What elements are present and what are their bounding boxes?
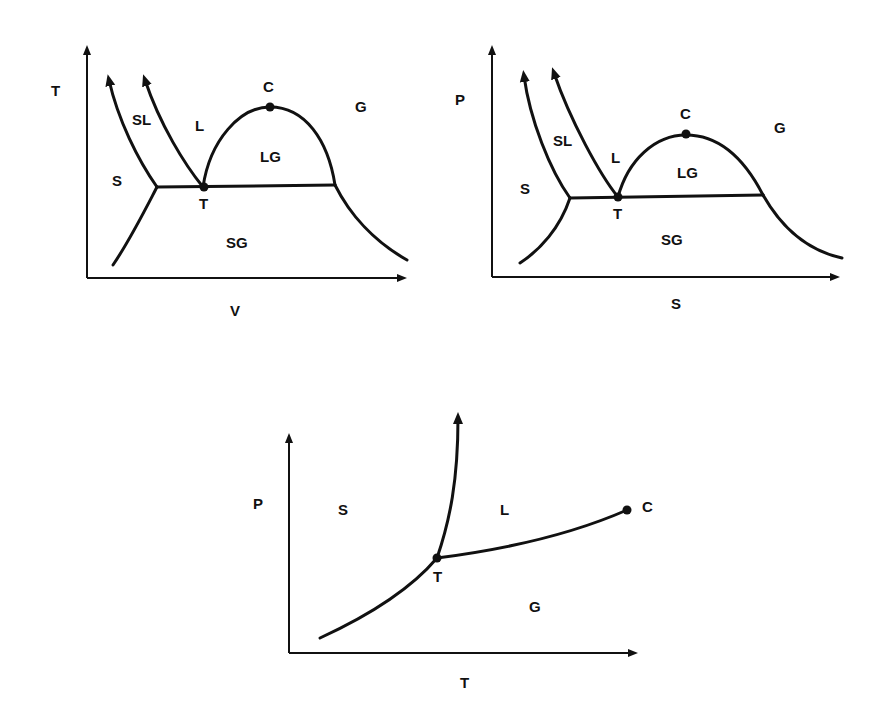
pt-triple-label: T [433,568,442,585]
ps-y-axis-label: P [455,91,465,108]
pt-region-l: L [500,501,509,518]
pt-sublimation-curve [320,558,437,638]
pt-region-g: G [529,598,541,615]
pt-critical-point [623,506,632,515]
tv-coexistence-dome [203,107,335,187]
tv-triple-point [200,183,209,192]
ps-vapor-right-curve [763,195,842,258]
ps-region-s: S [520,180,530,197]
tv-triple-line [157,185,335,187]
tv-x-axis-label: V [230,302,240,319]
ps-sublimation-left-curve [520,198,570,263]
ps-x-axis-label: S [671,295,681,312]
pt-diagram: P T C T S L G [253,418,653,691]
tv-region-l: L [195,117,204,134]
ps-critical-point [682,130,691,139]
pt-critical-label: C [642,498,653,515]
tv-critical-point [266,103,275,112]
tv-diagram: T V C T S SL L LG G SG [51,50,407,319]
ps-triple-line [570,195,763,198]
ps-region-lg: LG [677,164,698,181]
pt-vaporization-curve [437,510,627,558]
ps-region-g: G [774,119,786,136]
tv-vapor-right-curve [335,185,407,260]
tv-triple-label: T [199,195,208,212]
pt-triple-point [433,554,442,563]
ps-region-l: L [611,149,620,166]
ps-diagram: P S C T S SL L LG G SG [455,50,842,312]
pt-region-s: S [338,501,348,518]
ps-critical-label: C [680,105,691,122]
pt-melting-curve [437,418,458,558]
phase-diagrams: T V C T S SL L LG G SG P S [0,0,891,708]
ps-region-sl: SL [553,132,572,149]
tv-region-sg: SG [226,234,248,251]
tv-critical-label: C [263,78,274,95]
tv-region-sl: SL [132,111,151,128]
ps-triple-point [614,193,623,202]
ps-triple-label: T [613,205,622,222]
tv-region-g: G [355,98,367,115]
pt-x-axis-label: T [460,674,469,691]
ps-region-sg: SG [661,231,683,248]
pt-y-axis-label: P [253,495,263,512]
tv-region-s: S [112,172,122,189]
tv-y-axis-label: T [51,82,60,99]
tv-region-lg: LG [260,148,281,165]
tv-sublimation-left-curve [113,187,157,265]
